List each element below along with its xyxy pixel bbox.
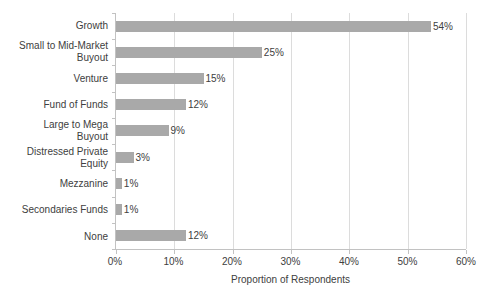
- bar: [116, 73, 204, 84]
- x-tick-label: 40%: [339, 256, 359, 267]
- category-label: Mezzanine: [60, 178, 108, 190]
- bar-value-label: 1%: [124, 178, 138, 189]
- category-labels: GrowthSmall to Mid-Market BuyoutVentureF…: [0, 13, 108, 250]
- bar: [116, 47, 262, 58]
- category-cell: Small to Mid-Market Buyout: [0, 39, 108, 65]
- category-label: Small to Mid-Market Buyout: [19, 40, 108, 64]
- bar-row: 1%: [116, 197, 466, 223]
- gridline: [466, 13, 467, 249]
- bar-chart: GrowthSmall to Mid-Market BuyoutVentureF…: [0, 0, 491, 296]
- category-label: Secondaries Funds: [22, 204, 108, 216]
- category-cell: Distressed Private Equity: [0, 145, 108, 171]
- y-axis-tick: [112, 170, 115, 171]
- bar: [116, 178, 122, 189]
- bar-row: 15%: [116, 65, 466, 91]
- category-label: Fund of Funds: [44, 99, 108, 111]
- category-cell: Large to Mega Buyout: [0, 118, 108, 144]
- x-axis-tick: [291, 250, 292, 254]
- y-axis-tick: [112, 223, 115, 224]
- bar-value-label: 3%: [136, 152, 150, 163]
- category-cell: Growth: [0, 13, 108, 39]
- bar-row: 9%: [116, 118, 466, 144]
- bar: [116, 152, 134, 163]
- bar-row: 12%: [116, 223, 466, 249]
- x-tick-labels: 0%10%20%30%40%50%60%: [115, 256, 466, 268]
- x-axis-tick: [174, 250, 175, 254]
- category-label: Distressed Private Equity: [27, 146, 108, 170]
- bar-row: 3%: [116, 144, 466, 170]
- x-axis-tick: [408, 250, 409, 254]
- bar-row: 54%: [116, 13, 466, 39]
- x-axis-tick: [466, 250, 467, 254]
- y-axis-tick: [112, 197, 115, 198]
- bar-value-label: 12%: [188, 99, 208, 110]
- bar-value-label: 12%: [188, 230, 208, 241]
- y-axis-tick: [112, 118, 115, 119]
- x-tick-label: 10%: [163, 256, 183, 267]
- x-tick-label: 20%: [222, 256, 242, 267]
- category-label: Growth: [76, 20, 108, 32]
- y-axis-tick: [112, 65, 115, 66]
- bar-row: 25%: [116, 39, 466, 65]
- bar: [116, 230, 186, 241]
- bar-rows: 54%25%15%12%9%3%1%1%12%: [116, 13, 466, 249]
- bar-value-label: 54%: [433, 21, 453, 32]
- category-label: Large to Mega Buyout: [44, 119, 109, 143]
- category-cell: None: [0, 224, 108, 250]
- y-axis-tick: [112, 92, 115, 93]
- x-axis-tick: [233, 250, 234, 254]
- y-axis-tick: [112, 144, 115, 145]
- x-axis-title: Proportion of Respondents: [115, 274, 466, 285]
- category-label: Venture: [74, 73, 108, 85]
- x-tick-label: 60%: [456, 256, 476, 267]
- bar: [116, 125, 169, 136]
- x-tick-label: 0%: [108, 256, 122, 267]
- bar-value-label: 1%: [124, 204, 138, 215]
- bar-value-label: 9%: [171, 125, 185, 136]
- bar-value-label: 15%: [206, 73, 226, 84]
- bar: [116, 204, 122, 215]
- bar-row: 12%: [116, 92, 466, 118]
- plot-area: 54%25%15%12%9%3%1%1%12%: [115, 13, 466, 250]
- x-tick-label: 50%: [397, 256, 417, 267]
- bar-row: 1%: [116, 170, 466, 196]
- y-axis-tick: [112, 13, 115, 14]
- category-cell: Fund of Funds: [0, 92, 108, 118]
- y-axis-tick: [112, 39, 115, 40]
- category-cell: Secondaries Funds: [0, 197, 108, 223]
- bar: [116, 99, 186, 110]
- category-cell: Venture: [0, 66, 108, 92]
- bar-value-label: 25%: [264, 47, 284, 58]
- y-axis-tick: [112, 249, 115, 250]
- category-cell: Mezzanine: [0, 171, 108, 197]
- x-tick-label: 30%: [280, 256, 300, 267]
- category-label: None: [84, 231, 108, 243]
- bar: [116, 21, 431, 32]
- x-axis-tick: [116, 250, 117, 254]
- x-axis-tick: [349, 250, 350, 254]
